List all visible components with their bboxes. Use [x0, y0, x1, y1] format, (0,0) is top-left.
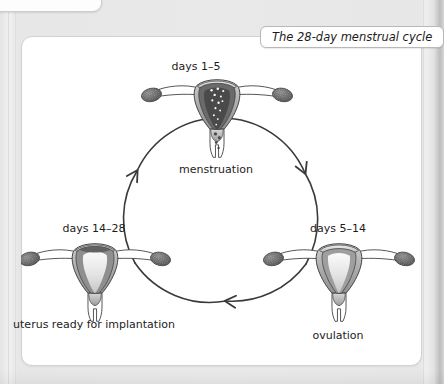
page-bottom-shadow [0, 370, 444, 384]
stage-caption-ovulation: ovulation [312, 329, 363, 342]
page-edge-line-right [423, 0, 424, 384]
uterus-menstruation [140, 80, 294, 158]
diagram-title-pill: The 28-day menstrual cycle [260, 26, 444, 48]
uterus-ovulation [262, 244, 416, 322]
cycle-arrow-right-to-left [226, 264, 306, 301]
cycle-arrow-left-to-top [123, 171, 137, 263]
diagram-title-text: The 28-day menstrual cycle [272, 30, 432, 44]
stage-caption-menstruation: menstruation [179, 163, 253, 176]
stage-caption-implantation: uterus ready for implantation [13, 318, 175, 331]
uterus-implantation [21, 244, 172, 322]
page-edge-line-left-outer [8, 0, 9, 384]
menstrual-cycle-diagram [21, 36, 422, 366]
stage-label-implantation-days: days 14–28 [63, 222, 126, 235]
page-background: The 28-day menstrual cycle [0, 0, 444, 384]
stage-label-menstruation-days: days 1–5 [172, 60, 221, 73]
stage-label-ovulation-days: days 5–14 [310, 222, 366, 235]
corner-tab-partial [0, 0, 102, 12]
